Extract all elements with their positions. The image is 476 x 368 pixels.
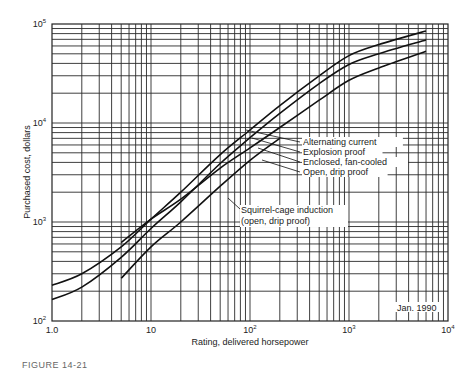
x-axis-label: Rating, delivered horsepower (191, 337, 308, 347)
legend-label: Alternating current (303, 137, 377, 147)
grid (52, 24, 448, 321)
group-label: Squirrel-cage induction (241, 205, 333, 215)
y-tick-label: 104 (33, 117, 47, 128)
legend-label: Enclosed, fan-cooled (303, 157, 387, 167)
x-tick-label: 103 (342, 324, 356, 335)
y-axis-label: Purchased cost, dollars (22, 125, 32, 219)
x-tick-label: 10 (146, 325, 156, 335)
y-tick-label: 105 (33, 18, 47, 29)
date-label: Jan. 1990 (397, 303, 437, 313)
cost-chart: 1.010102103104102103104105Rating, delive… (0, 0, 476, 368)
y-tick-label: 103 (33, 216, 47, 227)
x-tick-label: 1.0 (46, 325, 59, 335)
legend-label: Open, drip proof (303, 167, 369, 177)
y-tick-label: 102 (33, 315, 47, 326)
group-sublabel: (open, drip proof) (241, 216, 310, 226)
legend-label: Explosion proof (303, 147, 366, 157)
x-tick-label: 104 (441, 324, 455, 335)
x-tick-label: 102 (243, 324, 257, 335)
figure-caption: FIGURE 14-21 (22, 360, 88, 368)
